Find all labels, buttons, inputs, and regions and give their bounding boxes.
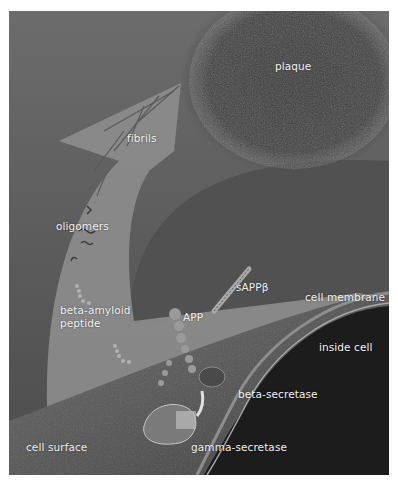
beta-secretase-enzyme <box>199 367 225 387</box>
label-beta-amyloid-line1: beta-amyloid <box>60 304 130 317</box>
label-cell-surface: cell surface <box>26 441 87 454</box>
label-sappb: sAPPβ <box>236 281 269 294</box>
label-beta-amyloid-line2: peptide <box>60 317 101 330</box>
label-fibrils: fibrils <box>127 132 157 145</box>
label-plaque: plaque <box>275 60 311 73</box>
diagram-illustration <box>9 11 389 475</box>
diagram-frame: plaque fibrils oligomers sAPPβ cell memb… <box>9 11 389 475</box>
label-beta-secretase: beta-secretase <box>238 388 318 401</box>
label-cell-membrane: cell membrane <box>305 291 385 304</box>
label-gamma-secretase: gamma-secretase <box>191 441 287 454</box>
label-oligomers: oligomers <box>56 220 109 233</box>
label-inside-cell: inside cell <box>319 341 373 354</box>
label-app: APP <box>183 311 203 324</box>
